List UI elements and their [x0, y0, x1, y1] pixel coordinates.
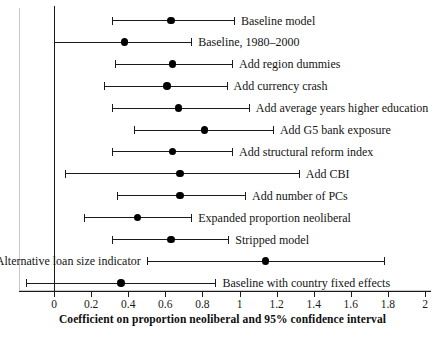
x-axis-tick	[425, 292, 426, 297]
estimate-row: Alternative loan size indicator	[0, 255, 445, 269]
estimate-point	[169, 148, 177, 156]
x-axis-tick-label: 0.8	[195, 298, 209, 310]
x-axis-tick-label: 1.8	[381, 298, 395, 310]
x-axis-tick-label: 1.6	[344, 298, 358, 310]
x-axis-tick-label: 1.4	[307, 298, 321, 310]
x-axis-tick	[388, 292, 389, 297]
estimate-row-label: Add region dummies	[239, 57, 340, 71]
estimate-row-label: Baseline, 1980–2000	[198, 35, 299, 49]
confidence-interval-lower-cap	[112, 17, 113, 25]
estimate-row-label: Expanded proportion neoliberal	[198, 211, 351, 225]
estimate-row: Stripped model	[0, 233, 445, 247]
estimate-point	[201, 126, 209, 134]
confidence-interval-lower-cap	[104, 82, 105, 90]
estimate-row-label: Add structural reform index	[239, 145, 373, 159]
x-axis-tick-label: 0	[51, 298, 57, 310]
confidence-interval-lower-cap	[115, 60, 116, 68]
estimate-row: Baseline, 1980–2000	[0, 36, 445, 50]
confidence-interval-upper-cap	[232, 60, 233, 68]
estimate-row: Expanded proportion neoliberal	[0, 211, 445, 225]
estimate-row: Add currency crash	[0, 80, 445, 94]
estimate-row: Add G5 bank exposure	[0, 124, 445, 138]
x-axis-tick	[54, 292, 55, 297]
confidence-interval-lower-cap	[112, 104, 113, 112]
confidence-interval-upper-cap	[245, 192, 246, 200]
estimate-row-label: Add CBI	[306, 167, 350, 181]
x-axis-tick-label: 0.2	[84, 298, 98, 310]
confidence-interval-lower-cap	[112, 148, 113, 156]
estimate-row: Baseline model	[0, 14, 445, 28]
estimate-point	[175, 104, 183, 112]
x-axis-tick	[314, 292, 315, 297]
confidence-interval-lower-cap	[65, 170, 66, 178]
estimate-point	[167, 17, 175, 25]
confidence-interval-lower-cap	[26, 279, 27, 287]
estimate-point	[163, 82, 171, 90]
x-axis-tick-label: 0.4	[121, 298, 135, 310]
x-axis-title: Coefficient on proportion neoliberal and…	[0, 313, 445, 325]
x-axis-tick-label: 2	[422, 298, 428, 310]
estimate-row: Add structural reform index	[0, 145, 445, 159]
confidence-interval-upper-cap	[232, 148, 233, 156]
x-axis-tick	[277, 292, 278, 297]
estimate-row-label: Baseline with country fixed effects	[222, 276, 390, 290]
confidence-interval-lower-cap	[84, 214, 85, 222]
estimate-row: Add region dummies	[0, 58, 445, 72]
estimate-point	[169, 60, 177, 68]
x-axis-tick	[91, 292, 92, 297]
estimate-point	[121, 38, 129, 46]
x-axis-tick	[128, 292, 129, 297]
estimate-row-label: Add currency crash	[234, 79, 328, 93]
confidence-interval-upper-cap	[384, 257, 385, 265]
x-axis-tick-label: 0.6	[158, 298, 172, 310]
confidence-interval-upper-cap	[249, 104, 250, 112]
x-axis-tick	[202, 292, 203, 297]
x-axis-tick-label: 1	[237, 298, 243, 310]
confidence-interval-lower-cap	[147, 257, 148, 265]
confidence-interval-upper-cap	[273, 126, 274, 134]
confidence-interval-upper-cap	[228, 236, 229, 244]
estimate-point	[262, 257, 270, 265]
confidence-interval-lower-cap	[117, 192, 118, 200]
estimate-row-label: Add G5 bank exposure	[280, 123, 391, 137]
estimate-row: Add number of PCs	[0, 189, 445, 203]
estimate-point	[176, 170, 184, 178]
x-axis-tick	[351, 292, 352, 297]
confidence-interval-upper-cap	[215, 279, 216, 287]
confidence-interval-lower-cap	[112, 236, 113, 244]
confidence-interval-lower-cap	[134, 126, 135, 134]
x-axis-tick-label: 1.2	[269, 298, 283, 310]
coefficient-plot: Baseline modelBaseline, 1980–2000Add reg…	[0, 0, 445, 338]
estimate-point	[117, 279, 125, 287]
estimate-row-label: Add number of PCs	[252, 189, 348, 203]
x-axis-tick	[165, 292, 166, 297]
estimate-point	[176, 192, 184, 200]
estimate-row-label: Alternative loan size indicator	[0, 254, 141, 268]
confidence-interval-lower-cap	[54, 38, 55, 46]
estimate-row-label: Add average years higher education	[256, 101, 429, 115]
estimate-point	[134, 214, 142, 222]
estimate-point	[167, 236, 175, 244]
estimate-row: Add average years higher education	[0, 102, 445, 116]
confidence-interval-upper-cap	[191, 38, 192, 46]
estimate-row-label: Baseline model	[241, 14, 315, 28]
confidence-interval-upper-cap	[234, 17, 235, 25]
estimate-row-label: Stripped model	[235, 233, 309, 247]
estimate-row: Baseline with country fixed effects	[0, 277, 445, 291]
estimate-row: Add CBI	[0, 167, 445, 181]
x-axis-line	[19, 291, 431, 292]
confidence-interval-upper-cap	[227, 82, 228, 90]
confidence-interval-upper-cap	[299, 170, 300, 178]
confidence-interval-upper-cap	[191, 214, 192, 222]
x-axis-tick	[240, 292, 241, 297]
